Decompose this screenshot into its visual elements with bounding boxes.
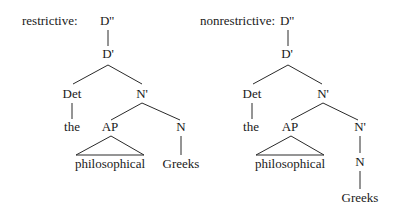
node-det: Det (243, 86, 262, 101)
node-d-bar: D' (102, 46, 114, 61)
node-d-double-bar: D'' (100, 13, 114, 28)
word-greeks: Greeks (163, 156, 200, 171)
diagram-canvas: restrictive: D'' D' Det the N' AP philos… (0, 0, 398, 212)
edge-nbar-nbar2 (323, 103, 358, 120)
tree-restrictive: restrictive: D'' D' Det the N' AP philos… (22, 13, 199, 171)
edge-nbar-ap (111, 103, 142, 120)
node-d-double-bar: D'' (280, 13, 294, 28)
word-philosophical: philosophical (255, 156, 325, 171)
edge-dbar-det (253, 65, 288, 84)
node-n: N (176, 119, 186, 134)
node-n-bar: N' (317, 86, 329, 101)
caption-nonrestrictive: nonrestrictive: (200, 13, 275, 28)
node-n-bar-lower: N' (354, 119, 366, 134)
syntax-tree-figure: restrictive: D'' D' Det the N' AP philos… (0, 0, 398, 212)
node-det: Det (63, 86, 82, 101)
edge-dbar-nbar (108, 65, 142, 84)
triangle-ap (76, 136, 144, 155)
node-n-bar: N' (136, 86, 148, 101)
word-the: the (243, 119, 259, 134)
node-n: N (355, 154, 365, 169)
triangle-ap (256, 136, 324, 155)
edge-dbar-nbar (288, 65, 322, 84)
node-d-bar: D' (281, 46, 293, 61)
edge-dbar-det (73, 65, 108, 84)
word-philosophical: philosophical (75, 156, 145, 171)
word-greeks: Greeks (342, 190, 379, 205)
tree-nonrestrictive: nonrestrictive: D'' D' Det the N' AP phi… (200, 13, 378, 205)
node-ap: AP (102, 119, 119, 134)
caption-restrictive: restrictive: (22, 13, 78, 28)
edge-nbar-ap (291, 103, 323, 120)
node-ap: AP (282, 119, 299, 134)
word-the: the (64, 119, 80, 134)
edge-nbar-n (142, 103, 180, 120)
